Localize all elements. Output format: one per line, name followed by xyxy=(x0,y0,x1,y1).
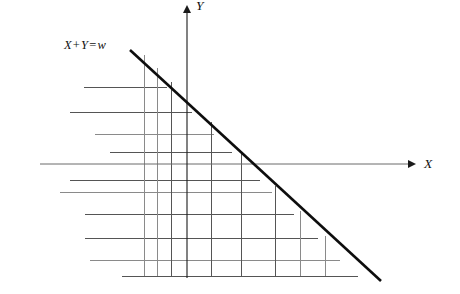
x-axis-label: X xyxy=(423,156,433,171)
horizontal-grid-lines xyxy=(60,87,358,276)
constraint-label-plus: + xyxy=(72,38,81,52)
y-axis-arrowhead xyxy=(183,5,191,13)
x-axis-arrowhead xyxy=(408,160,416,168)
figure-canvas: X Y X+Y=w xyxy=(0,0,460,294)
constraint-label-w: w xyxy=(98,38,107,52)
constraint-label-equals: = xyxy=(88,38,97,52)
constraint-line xyxy=(130,50,381,281)
y-axis-label: Y xyxy=(196,0,205,13)
constraint-label-x: X xyxy=(64,38,72,52)
constraint-equation-label: X+Y=w xyxy=(64,38,106,53)
